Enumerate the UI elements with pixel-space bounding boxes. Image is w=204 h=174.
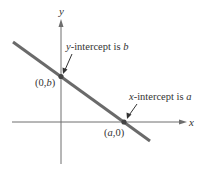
y-axis-arrow-icon [59, 19, 64, 27]
x-axis-arrow-icon [179, 120, 187, 125]
x-intercept-annotation: x-intercept is a [128, 91, 191, 102]
y-intercept-annotation: y-intercept is b [65, 41, 128, 52]
y-intercept-arrow-icon [63, 68, 68, 75]
x-intercept-point [121, 119, 126, 124]
y-axis-label: y [58, 5, 64, 17]
x-intercept-label: (a,0) [104, 127, 125, 139]
y-intercept-point [58, 74, 63, 79]
y-intercept-label: (0,b) [35, 77, 56, 89]
intercept-diagram: y x (0,b) (a,0) y-intercept is b x-inter… [0, 0, 204, 174]
diagram-svg: y x (0,b) (a,0) y-intercept is b x-inter… [0, 0, 204, 174]
x-axis-label: x [188, 116, 194, 128]
y-intercept-pointer [65, 54, 73, 71]
